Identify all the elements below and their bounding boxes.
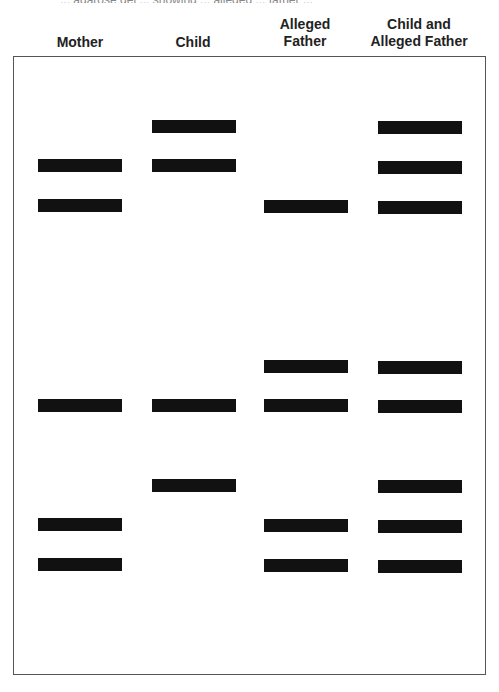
band-child-and-alleged-father [378,121,462,134]
band-mother [38,399,122,412]
band-child-and-alleged-father [378,161,462,174]
band-alleged-father [264,360,348,373]
band-alleged-father [264,200,348,213]
band-mother [38,558,122,571]
band-child-and-alleged-father [378,201,462,214]
lane-header-mother: Mother [30,34,130,51]
gel-frame [13,56,486,675]
alleged-father-word: Alleged Father [370,33,467,49]
band-child-and-alleged-father [378,361,462,374]
band-child [152,399,236,412]
cropped-caption-text: ... agarose gel ... showing ... alleged … [60,0,499,3]
band-mother [38,518,122,531]
band-child [152,120,236,133]
child-and-word: Child and [387,16,451,32]
band-alleged-father [264,559,348,572]
lane-header-child-and-alleged-father: Child and Alleged Father [354,16,484,50]
band-alleged-father [264,399,348,412]
band-child [152,479,236,492]
band-child-and-alleged-father [378,520,462,533]
band-mother [38,159,122,172]
band-alleged-father [264,519,348,532]
band-child-and-alleged-father [378,400,462,413]
band-mother [38,199,122,212]
band-child-and-alleged-father [378,560,462,573]
father-word: Father [284,33,327,49]
alleged-word: Alleged [280,16,331,32]
band-child [152,159,236,172]
lane-header-child: Child [143,34,243,51]
lane-header-alleged-father: Alleged Father [255,16,355,50]
band-child-and-alleged-father [378,480,462,493]
